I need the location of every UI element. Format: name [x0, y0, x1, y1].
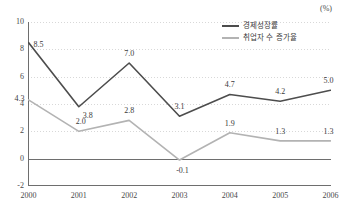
y-tick-label: -2 [17, 182, 24, 190]
y-tick-label: 6 [20, 73, 24, 81]
legend-item-label: 취업자 수 증가율 [243, 34, 297, 42]
y-tick-label: 10 [16, 18, 24, 26]
x-tick-label: 2006 [323, 192, 339, 200]
x-tick-label: 2005 [272, 192, 288, 200]
series-lines [29, 43, 331, 161]
data-point-label: 2.0 [76, 118, 86, 126]
unit-label: (%) [320, 4, 332, 13]
x-tick-label: 2000 [21, 192, 37, 200]
data-point-label: -0.1 [176, 167, 189, 175]
data-point-label: 4.2 [275, 88, 285, 96]
data-point-label: 1.3 [324, 128, 334, 136]
legend-item-label: 경제성장률 [243, 22, 278, 30]
data-point-label: 4.3 [15, 95, 25, 103]
legend-line-icon [222, 37, 239, 39]
y-tick-label: 0 [20, 155, 24, 163]
legend-item-1: 경제성장률 [222, 21, 297, 30]
data-point-label: 1.3 [275, 128, 285, 136]
y-tick-label: 8 [20, 45, 24, 53]
x-tick-label: 2004 [222, 192, 238, 200]
data-point-label: 4.7 [225, 81, 235, 89]
data-point-label: 8.5 [34, 41, 44, 49]
data-point-label: 3.1 [175, 103, 185, 111]
data-point-label: 2.8 [124, 107, 134, 115]
x-tick-label: 2001 [71, 192, 87, 200]
y-tick-label: 2 [20, 127, 24, 135]
legend-line-icon [222, 25, 239, 27]
plot-area: -20246810 2000200120022003200420052006 8… [28, 22, 331, 186]
data-point-label: 1.9 [225, 120, 235, 128]
data-point-label: 5.0 [324, 77, 334, 85]
legend-item-2: 취업자 수 증가율 [222, 33, 297, 42]
data-point-label: 7.0 [124, 50, 134, 58]
legend: 경제성장률취업자 수 증가율 [222, 21, 297, 42]
x-tick-label: 2003 [172, 192, 188, 200]
x-tick-label: 2002 [121, 192, 137, 200]
